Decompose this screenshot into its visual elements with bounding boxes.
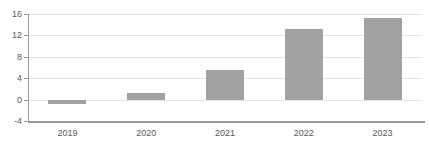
y-axis-tick-label: 12 [2, 30, 22, 40]
x-axis-tick-label: 2019 [28, 128, 107, 138]
x-axis-line [28, 121, 425, 123]
bar-chart: 1612840-420192020202120222023 [0, 0, 429, 148]
x-axis-tick-label: 2021 [186, 128, 265, 138]
bar-2019 [48, 100, 86, 104]
x-axis-tick-label: 2020 [107, 128, 186, 138]
plot-area: 1612840-420192020202120222023 [0, 0, 429, 148]
y-axis-tick-label: 4 [2, 73, 22, 83]
x-axis-tick-label: 2023 [343, 128, 422, 138]
y-axis-tick-label: 16 [2, 9, 22, 19]
bar-2022 [285, 29, 323, 100]
gridline [28, 100, 422, 101]
y-axis-tick-label: 0 [2, 95, 22, 105]
y-axis-tick-label: 8 [2, 52, 22, 62]
gridline [28, 14, 422, 15]
bar-2020 [127, 93, 165, 99]
bar-2023 [364, 18, 402, 100]
y-axis-line [28, 14, 29, 121]
x-axis-tick-label: 2022 [264, 128, 343, 138]
bar-2021 [206, 70, 244, 99]
y-axis-tick-label: -4 [2, 116, 22, 126]
